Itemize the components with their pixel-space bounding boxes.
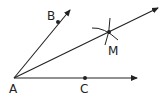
label-m: M xyxy=(108,44,118,58)
point-m xyxy=(107,30,111,34)
ray-am xyxy=(14,8,158,78)
label-b: B xyxy=(47,9,55,23)
point-b xyxy=(56,20,60,24)
geometry-diagram: A B C M xyxy=(0,0,167,99)
ray-ab xyxy=(14,10,70,78)
point-c xyxy=(83,76,87,80)
label-a: A xyxy=(9,82,18,96)
label-c: C xyxy=(80,82,88,96)
